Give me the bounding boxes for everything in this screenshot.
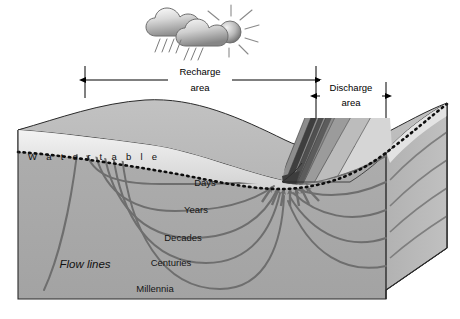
figure-canvas: Recharge area Recharge area Discharge ar… — [0, 0, 460, 319]
time-label-decades: Decades — [164, 232, 202, 243]
discharge-area-label-2: area — [341, 97, 361, 108]
flow-lines-label: Flow lines — [59, 258, 110, 270]
discharge-area-label-1: Discharge — [330, 82, 373, 93]
groundwater-flow-figure: Recharge area Recharge area Discharge ar… — [0, 0, 460, 319]
time-label-millennia: Millennia — [136, 283, 174, 294]
recharge-area-label-1: Recharge — [179, 66, 220, 77]
time-label-days: Days — [194, 177, 216, 188]
time-label-centuries: Centuries — [151, 257, 192, 268]
weather-icon-group — [146, 5, 259, 60]
water-table-label: W a t e r t a b l e — [28, 151, 160, 162]
time-label-years: Years — [184, 204, 208, 215]
recharge-area-label-2: area — [190, 82, 210, 93]
